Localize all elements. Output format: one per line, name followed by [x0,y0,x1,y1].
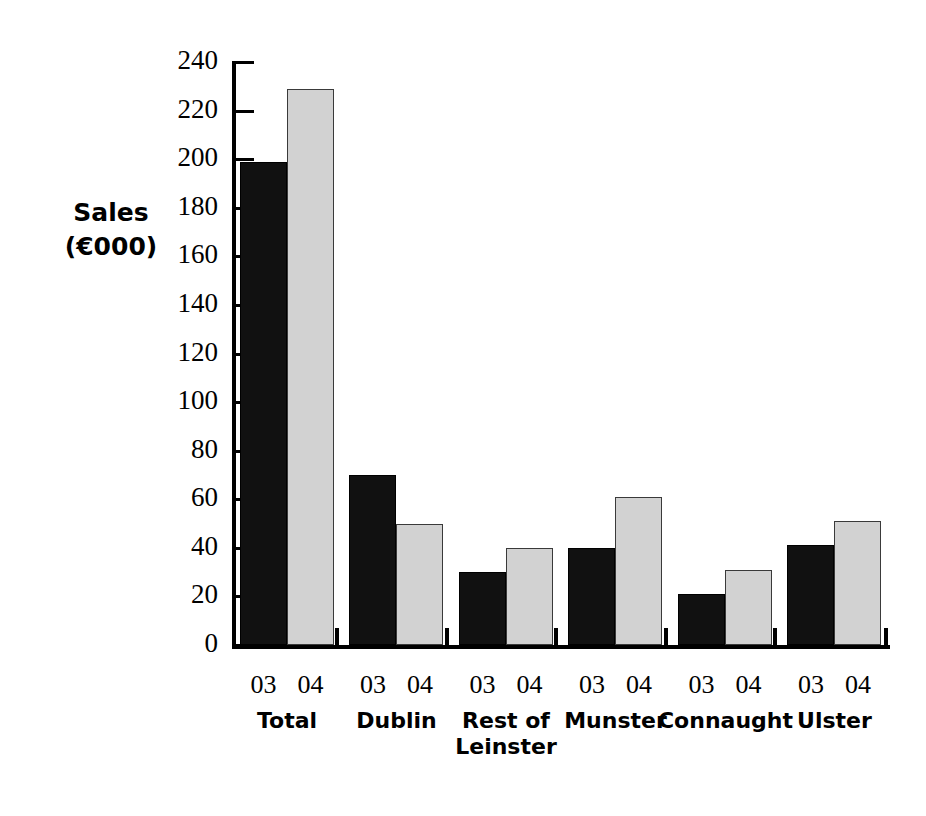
plot-area: 020406080100120140160180200220240 [232,62,890,645]
x-axis-year-label: 03 [568,672,615,698]
bar-rest-of-leinster-04 [506,548,553,645]
bar-munster-04 [615,497,662,645]
x-axis-group-separator [773,628,777,649]
x-axis-year-label: 03 [678,672,725,698]
y-axis-tick-label: 100 [148,387,218,414]
bar-total-04 [287,89,334,645]
x-axis-year-label: 04 [834,672,881,698]
y-axis-tick-label: 120 [148,339,218,366]
x-axis-year-label: 04 [615,672,662,698]
y-axis-tick-label: 40 [148,533,218,560]
x-axis-group-separator [554,628,558,649]
x-axis-end-tick [884,628,888,649]
bar-connaught-03 [678,594,725,645]
x-axis-category-label-line1: Ulster [767,708,901,734]
x-axis-year-label: 04 [287,672,334,698]
x-axis-category-label-line2: Leinster [439,734,573,760]
y-axis-tick-label: 60 [148,484,218,511]
bar-connaught-04 [725,570,772,645]
bar-ulster-04 [834,521,881,645]
y-axis-tick-label: 160 [148,241,218,268]
y-axis-tick-label: 20 [148,581,218,608]
x-axis-year-label: 03 [459,672,506,698]
y-axis-tick-label: 220 [148,96,218,123]
y-axis-tick: 220 [232,110,254,113]
x-axis-year-label: 03 [349,672,396,698]
x-axis-category-label: Ulster [767,708,901,734]
y-axis-tick-label: 200 [148,144,218,171]
chart-page: Sales (€000) 020406080100120140160180200… [0,0,926,816]
y-axis-tick-label: 80 [148,436,218,463]
bar-ulster-03 [787,545,834,645]
y-axis-tick-label: 140 [148,290,218,317]
x-axis-group-separator [335,628,339,649]
bar-rest-of-leinster-03 [459,572,506,645]
y-axis-tick-label: 240 [148,47,218,74]
bar-dublin-03 [349,475,396,645]
x-axis-year-label: 04 [396,672,443,698]
y-axis-tick: 240 [232,61,254,64]
bar-munster-03 [568,548,615,645]
x-axis-year-label: 04 [506,672,553,698]
x-axis-year-label: 04 [725,672,772,698]
y-axis-tick-label: 180 [148,193,218,220]
x-axis-line [232,645,890,649]
x-axis-year-label: 03 [787,672,834,698]
bar-dublin-04 [396,524,443,645]
x-axis-group-separator [445,628,449,649]
x-axis-year-label: 03 [240,672,287,698]
y-axis-tick-label: 0 [148,630,218,657]
bar-total-03 [240,162,287,645]
x-axis-group-separator [664,628,668,649]
